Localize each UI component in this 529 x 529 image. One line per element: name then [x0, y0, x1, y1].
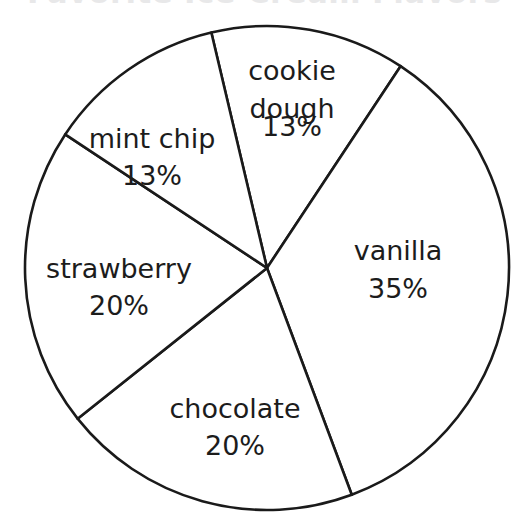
slice-label-cookie-dough: cookie	[248, 55, 336, 86]
pie-chart-svg: cookiedough13%vanilla35%chocolate20%stra…	[0, 0, 529, 529]
slice-value-vanilla: 35%	[368, 273, 428, 304]
slice-value-cookie-dough: 13%	[262, 111, 322, 142]
slice-label-mint-chip: mint chip	[89, 123, 216, 154]
slice-label-strawberry: strawberry	[46, 253, 192, 284]
pie-chart-figure: Favorite Ice Cream Flavors cookiedough13…	[0, 0, 529, 529]
slice-value-strawberry: 20%	[89, 290, 149, 321]
slice-label-chocolate: chocolate	[169, 393, 300, 424]
slice-value-mint-chip: 13%	[122, 160, 182, 191]
slice-label-vanilla: vanilla	[354, 235, 443, 266]
slice-value-chocolate: 20%	[205, 430, 265, 461]
